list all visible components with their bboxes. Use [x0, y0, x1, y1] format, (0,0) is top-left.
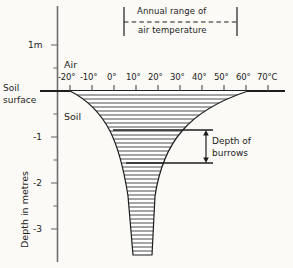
temp-tick-label-70: 70°C [257, 73, 277, 82]
temp-tick-label-10: 10° [126, 73, 140, 82]
depth-label-minus1: -1 [33, 133, 42, 142]
temperature-range-envelope [70, 91, 248, 255]
temp-tick-label-20: 20° [148, 73, 162, 82]
temp-tick-label-40: 40° [192, 73, 206, 82]
soil-temperature-diagram [0, 0, 293, 268]
temp-tick-label-minus10: -10° [80, 73, 97, 82]
depth-label-minus3: -3 [33, 225, 42, 234]
temp-tick-label-50: 50° [214, 73, 228, 82]
temp-tick-label-30: 30° [170, 73, 184, 82]
temp-tick-label-60: 60° [236, 73, 250, 82]
annual-range-line2: air temperature [138, 26, 207, 35]
soil-zone-label: Soil [64, 112, 81, 122]
air-zone-label: Air [64, 60, 77, 70]
depth-axis-ticks [51, 45, 58, 229]
soil-surface-label-line1: Soil [3, 83, 19, 94]
burrows-label-line2: burrows [212, 148, 248, 159]
depth-axis-title: Depth in metres [20, 171, 30, 248]
burrows-label-line1: Depth of [212, 136, 251, 147]
burrow-depth-arrow [203, 130, 209, 163]
annual-range-line1: Annual range of [137, 7, 206, 16]
depth-label-minus2: -2 [33, 179, 42, 188]
depth-label-1m: 1m [28, 41, 43, 50]
temp-tick-label-0: 0° [107, 73, 116, 82]
temp-tick-label-minus20: -20° [58, 73, 75, 82]
soil-surface-label-line2: surface [3, 95, 36, 106]
